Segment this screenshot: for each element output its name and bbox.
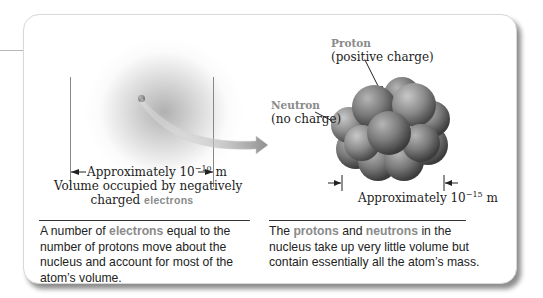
page-rule [0,50,24,51]
left-caption-rule [39,220,250,221]
atom-structure-figure: Proton (positive charge) Neutron (no cha… [23,14,517,284]
nucleus-dimension-label: Approximately 10−15 m [358,191,498,205]
proton-label: Proton (positive charge) [331,36,434,64]
right-caption: The protons and neutrons in the nucleus … [269,224,494,271]
cloud-volume-label: Volume occupied by negatively charged el… [54,179,230,207]
cloud-dimension-label: Approximately 10−10 m [87,165,227,179]
right-caption-rule [269,220,466,221]
left-caption: A number of electrons equal to the numbe… [40,224,254,286]
neutron-label: Neutron (no charge) [271,98,341,126]
